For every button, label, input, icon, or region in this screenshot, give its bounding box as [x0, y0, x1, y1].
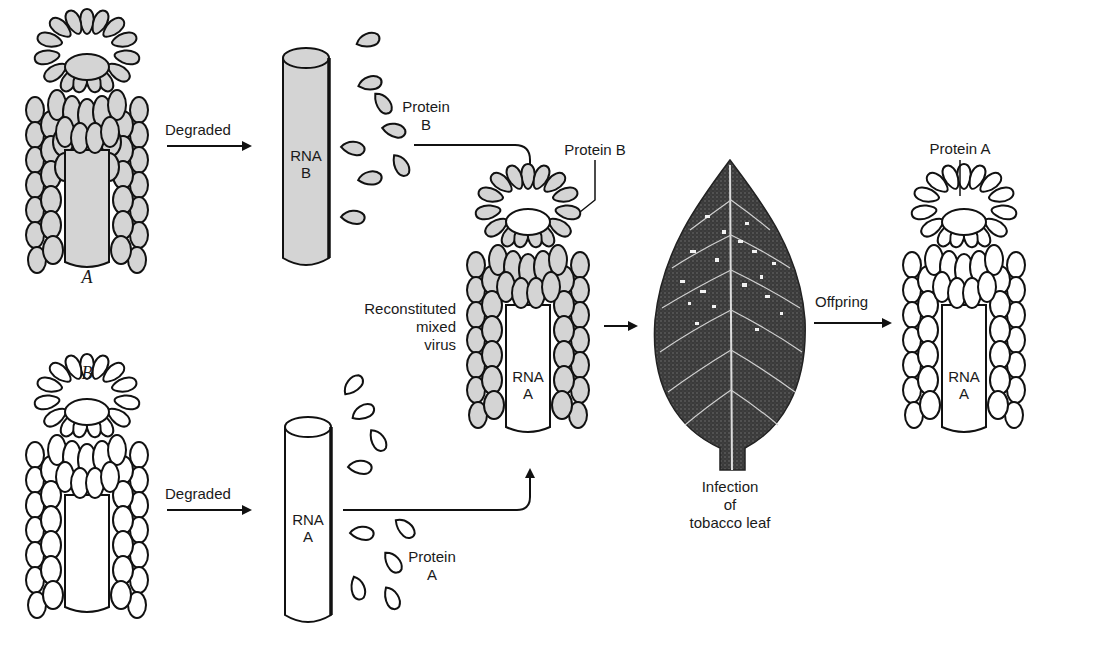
protein-b-free-label: Protein B [396, 98, 456, 134]
rna-a-label: RNA A [285, 511, 331, 545]
reconstituted-virus-label: Reconstituted mixed virus [346, 300, 456, 354]
offspring-label: Offpring [815, 293, 885, 311]
rna-offspring-label: RNA A [942, 368, 986, 402]
rna-b-label: RNA B [283, 147, 329, 181]
tobacco-leaf-illustration [654, 160, 805, 470]
degraded-label-top: Degraded [165, 121, 255, 139]
virus-b-label: B [75, 364, 99, 382]
infection-label: Infection of tobacco leaf [670, 478, 790, 532]
protein-a-callout-label: Protein A [918, 140, 1002, 158]
protein-b-callout-line [580, 160, 595, 212]
degraded-label-bottom: Degraded [165, 485, 255, 503]
virus-b-illustration [26, 353, 148, 618]
protein-b-callout-label: Protein B [555, 141, 635, 159]
rna-mixed-label: RNA A [506, 368, 550, 402]
protein-a-free-label: Protein A [402, 548, 462, 584]
diagram-canvas [0, 0, 1097, 656]
virus-a-illustration [26, 8, 148, 273]
rna-a-arrow [343, 470, 530, 510]
virus-a-label: A [75, 268, 99, 286]
